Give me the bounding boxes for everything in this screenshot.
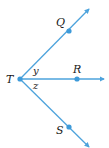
point-q bbox=[66, 28, 71, 33]
ray-ts bbox=[20, 79, 89, 147]
point-s bbox=[66, 124, 71, 129]
angle-label-z: z bbox=[33, 81, 38, 91]
diagram-canvas: Q R S T y z bbox=[0, 0, 109, 148]
angle-label-y: y bbox=[33, 66, 39, 76]
point-r bbox=[74, 76, 79, 81]
label-s: S bbox=[56, 125, 64, 136]
rays-diagram bbox=[0, 0, 109, 148]
label-r: R bbox=[73, 64, 81, 75]
label-q: Q bbox=[56, 17, 65, 28]
label-t: T bbox=[6, 74, 13, 85]
point-t bbox=[17, 76, 22, 81]
